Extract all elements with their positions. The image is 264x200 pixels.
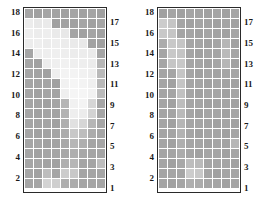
heatmap-cell bbox=[52, 159, 60, 168]
heatmap-cell bbox=[97, 59, 105, 68]
heatmap-cell bbox=[79, 159, 87, 168]
heatmap-cell bbox=[25, 179, 33, 188]
heatmap-cell bbox=[61, 29, 69, 38]
heatmap-cell bbox=[204, 159, 212, 168]
heatmap-cell bbox=[97, 119, 105, 128]
heatmap-cell bbox=[88, 139, 96, 148]
heatmap-cell bbox=[204, 19, 212, 28]
heatmap-cell bbox=[88, 119, 96, 128]
heatmap-cell bbox=[43, 29, 51, 38]
heatmap-cell bbox=[88, 99, 96, 108]
heatmap-cell bbox=[168, 149, 176, 158]
heatmap-cell bbox=[43, 69, 51, 78]
heatmap-cell bbox=[97, 69, 105, 78]
heatmap-cell bbox=[88, 39, 96, 48]
axis-tick-label: 4 bbox=[4, 153, 20, 161]
heatmap-cell bbox=[213, 19, 221, 28]
heatmap-cell bbox=[70, 89, 78, 98]
heatmap-cell bbox=[195, 139, 203, 148]
heatmap-cell bbox=[204, 49, 212, 58]
heatmap-cell bbox=[97, 39, 105, 48]
heatmap-cell bbox=[204, 29, 212, 38]
heatmap-cell bbox=[25, 59, 33, 68]
heatmap-cell bbox=[97, 89, 105, 98]
axis-tick-label: 18 bbox=[4, 8, 20, 16]
heatmap-cell bbox=[177, 79, 185, 88]
heatmap-cell bbox=[88, 179, 96, 188]
heatmap-cell bbox=[222, 19, 230, 28]
heatmap-cell bbox=[168, 109, 176, 118]
heatmap-cell bbox=[204, 119, 212, 128]
heatmap-cell bbox=[25, 119, 33, 128]
heatmap-cell bbox=[52, 119, 60, 128]
heatmap-cell bbox=[195, 39, 203, 48]
heatmap-cell bbox=[79, 129, 87, 138]
heatmap-cell bbox=[43, 169, 51, 178]
heatmap-cell bbox=[231, 9, 239, 18]
heatmap-cell bbox=[79, 29, 87, 38]
heatmap-cell bbox=[61, 139, 69, 148]
heatmap-cell bbox=[195, 149, 203, 158]
heatmap-cell bbox=[159, 109, 167, 118]
heatmap-cell bbox=[25, 19, 33, 28]
heatmap-cell bbox=[70, 19, 78, 28]
heatmap-cell bbox=[195, 119, 203, 128]
heatmap-cell bbox=[222, 89, 230, 98]
heatmap-cell bbox=[88, 89, 96, 98]
left-heatmap-plot-area bbox=[23, 7, 107, 193]
heatmap-cell bbox=[186, 9, 194, 18]
heatmap-cell bbox=[52, 89, 60, 98]
heatmap-cell bbox=[34, 39, 42, 48]
heatmap-cell bbox=[79, 139, 87, 148]
heatmap-cell bbox=[204, 79, 212, 88]
heatmap-cell bbox=[231, 39, 239, 48]
heatmap-cell bbox=[97, 99, 105, 108]
heatmap-cell bbox=[79, 79, 87, 88]
heatmap-cell bbox=[222, 29, 230, 38]
axis-tick-label: 9 bbox=[110, 101, 126, 109]
heatmap-cell bbox=[204, 99, 212, 108]
heatmap-cell bbox=[159, 179, 167, 188]
heatmap-cell bbox=[195, 19, 203, 28]
heatmap-cell bbox=[159, 159, 167, 168]
heatmap-cell bbox=[61, 39, 69, 48]
heatmap-cell bbox=[222, 109, 230, 118]
heatmap-cell bbox=[195, 99, 203, 108]
axis-tick-label: 9 bbox=[244, 101, 260, 109]
heatmap-cell bbox=[52, 29, 60, 38]
heatmap-cell bbox=[222, 179, 230, 188]
heatmap-cell bbox=[88, 49, 96, 58]
heatmap-cell bbox=[159, 29, 167, 38]
heatmap-cell bbox=[231, 69, 239, 78]
heatmap-cell bbox=[70, 119, 78, 128]
heatmap-cell bbox=[186, 29, 194, 38]
right-heatmap-right-axis: 17 15 13 11 9 7 5 3 1 bbox=[241, 7, 260, 193]
heatmap-cell bbox=[52, 139, 60, 148]
heatmap-cell bbox=[43, 179, 51, 188]
heatmap-cell bbox=[61, 129, 69, 138]
heatmap-cell bbox=[186, 129, 194, 138]
heatmap-cell bbox=[222, 49, 230, 58]
axis-tick-label: 10 bbox=[138, 91, 154, 99]
heatmap-cell bbox=[79, 39, 87, 48]
heatmap-cell bbox=[25, 149, 33, 158]
heatmap-cell bbox=[231, 179, 239, 188]
axis-tick-label: 16 bbox=[4, 29, 20, 37]
heatmap-cell bbox=[25, 109, 33, 118]
heatmap-cell bbox=[195, 169, 203, 178]
heatmap-cell bbox=[34, 109, 42, 118]
heatmap-cell bbox=[34, 139, 42, 148]
axis-tick-label: 13 bbox=[110, 60, 126, 68]
heatmap-cell bbox=[25, 89, 33, 98]
axis-tick-label: 18 bbox=[138, 8, 154, 16]
axis-tick-label: 12 bbox=[4, 70, 20, 78]
heatmap-cell bbox=[177, 99, 185, 108]
heatmap-cell bbox=[159, 119, 167, 128]
heatmap-cell bbox=[88, 159, 96, 168]
axis-tick-label: 14 bbox=[4, 49, 20, 57]
heatmap-cell bbox=[159, 9, 167, 18]
heatmap-cell bbox=[97, 9, 105, 18]
heatmap-cell bbox=[186, 159, 194, 168]
heatmap-cell bbox=[159, 69, 167, 78]
heatmap-cell bbox=[70, 129, 78, 138]
